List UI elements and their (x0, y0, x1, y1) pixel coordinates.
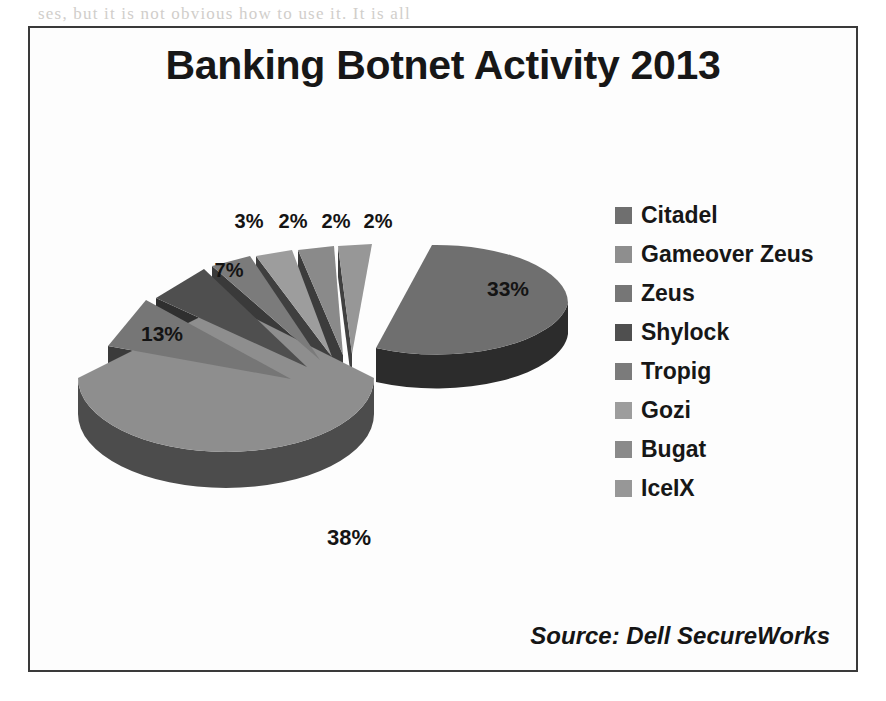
legend-item-tropig: Tropig (615, 352, 850, 391)
pie-value-label-citadel: 33% (487, 277, 529, 300)
legend-item-gameover-zeus: Gameover Zeus (615, 235, 850, 274)
legend-swatch-icon (615, 246, 632, 263)
pie-value-label-gozi: 2% (279, 210, 308, 232)
pie-value-label-gameover-zeus: 38% (327, 525, 371, 550)
legend-item-gozi: Gozi (615, 391, 850, 430)
legend-label: Shylock (641, 319, 729, 346)
pie-value-label-zeus: 13% (141, 322, 183, 345)
pie-value-label-iceix: 2% (364, 210, 393, 232)
legend-swatch-icon (615, 402, 632, 419)
legend-swatch-icon (615, 441, 632, 458)
legend-swatch-icon (615, 207, 632, 224)
legend-label: Citadel (641, 202, 718, 229)
legend-swatch-icon (615, 285, 632, 302)
legend-item-shylock: Shylock (615, 313, 850, 352)
legend-label: Tropig (641, 358, 711, 385)
chart-source-note: Source: Dell SecureWorks (530, 622, 830, 650)
chart-figure-frame: Banking Botnet Activity 2013 (28, 26, 858, 672)
pie-value-label-shylock: 7% (215, 259, 244, 281)
legend-item-iceix: IceIX (615, 469, 850, 508)
legend-item-zeus: Zeus (615, 274, 850, 313)
pie-chart: 38% 33% 13% 7% 3% 2% 2% 2% (60, 138, 600, 578)
legend-swatch-icon (615, 324, 632, 341)
legend-swatch-icon (615, 480, 632, 497)
legend-label: Gozi (641, 397, 691, 424)
legend-label: IceIX (641, 475, 695, 502)
legend-label: Bugat (641, 436, 706, 463)
legend-item-citadel: Citadel (615, 196, 850, 235)
bleed-text-line: ses, but it is not obvious how to use it… (38, 4, 411, 24)
chart-title: Banking Botnet Activity 2013 (30, 42, 856, 89)
pie-chart-svg: 38% 33% 13% 7% 3% 2% 2% 2% (60, 138, 600, 578)
chart-legend: Citadel Gameover Zeus Zeus Shylock Tropi… (615, 196, 850, 508)
legend-label: Zeus (641, 280, 695, 307)
legend-label: Gameover Zeus (641, 241, 814, 268)
pie-value-label-tropig: 3% (235, 210, 264, 232)
legend-swatch-icon (615, 363, 632, 380)
legend-item-bugat: Bugat (615, 430, 850, 469)
pie-value-label-bugat: 2% (322, 210, 351, 232)
